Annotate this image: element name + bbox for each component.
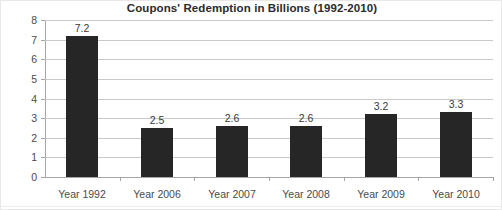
x-tick-mark [194,177,195,181]
bar [290,126,322,177]
x-tick-mark [120,177,121,181]
bar [141,128,173,177]
y-tick-label: 7 [11,35,37,46]
x-tick-mark [344,177,345,181]
bar-value-label: 2.5 [132,115,182,126]
bar [365,114,397,177]
y-tick-label: 0 [11,172,37,183]
y-tick-label: 4 [11,94,37,105]
bar [440,112,472,177]
chart-title: Coupons' Redemption in Billions (1992-20… [1,2,502,14]
gridline [45,118,493,119]
gridline [45,20,493,21]
x-tick-mark [418,177,419,181]
bar-value-label: 7.2 [57,23,107,34]
bar-value-label: 3.2 [356,101,406,112]
bar-value-label: 2.6 [281,113,331,124]
bar-value-label: 3.3 [431,99,481,110]
bar-chart: Coupons' Redemption in Billions (1992-20… [0,0,502,210]
bar-value-label: 2.6 [207,113,257,124]
y-tick-label: 2 [11,133,37,144]
y-tick-label: 6 [11,54,37,65]
bar [216,126,248,177]
gridline [45,59,493,60]
gridline [45,40,493,41]
gridline [45,79,493,80]
x-tick-mark [493,177,494,181]
gridline [45,138,493,139]
x-tick-label: Year 2010 [411,189,501,200]
y-tick-label: 5 [11,74,37,85]
y-tick-label: 8 [11,15,37,26]
x-tick-mark [269,177,270,181]
y-tick-label: 1 [11,152,37,163]
chart-bottom-border [1,206,502,207]
bar [66,36,98,177]
gridline [45,157,493,158]
y-tick-label: 3 [11,113,37,124]
gridline [45,99,493,100]
